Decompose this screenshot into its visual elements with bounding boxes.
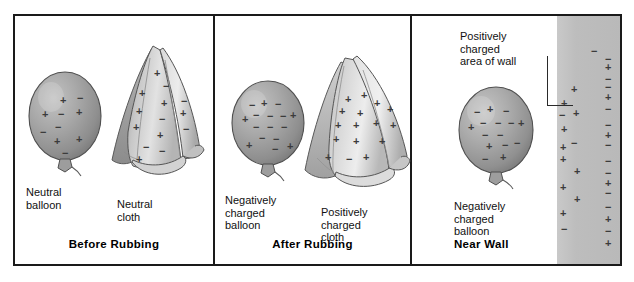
charge-plus: + [136,106,142,117]
charge-plus: + [357,108,363,119]
charge-plus: + [60,95,66,106]
figure-frame: + − + − + − − + + − Neutral balloon [13,14,622,266]
charge-plus: + [605,238,611,249]
charge-plus: + [373,118,379,129]
charge-plus: + [133,122,139,133]
charge-minus: − [253,110,259,121]
charge-minus: − [559,110,565,121]
charge-minus: − [58,109,64,120]
neutral-balloon: + − + − + − − + + − [27,69,107,181]
charge-minus: − [605,202,611,213]
charge-plus: + [136,154,142,165]
charge-plus: + [387,104,393,115]
wall-callout-line-horizontal [547,105,573,106]
charge-plus: + [390,120,396,131]
charge-plus: + [54,136,60,147]
charge-minus: − [181,96,187,107]
charge-plus: + [157,130,163,141]
negatively-charged-balloon-label: Negatively charged balloon [454,200,505,238]
charge-minus: − [605,188,611,199]
charge-plus: + [290,110,296,121]
charge-plus: + [500,152,506,163]
panel-before-rubbing: + − + − + − − + + − Neutral balloon [15,16,213,264]
charge-plus: + [325,152,331,163]
caption-before-rubbing: Before Rubbing [15,238,213,250]
negatively-charged-balloon: − + − − + − − + − − + − − − + [456,84,540,196]
charge-plus: + [353,120,359,131]
charge-plus: + [573,108,579,119]
charge-minus: − [267,122,273,133]
charge-plus: + [374,98,380,109]
charge-minus: − [62,148,68,159]
panel-near-wall: + + − + + − + + + + + + − − − + − − + [412,16,620,264]
negatively-charged-balloon: − + − − + − − + − − − − + − − + [229,78,311,188]
charge-plus: + [76,134,82,145]
charge-plus: + [287,141,293,152]
charge-minus: − [495,118,501,129]
charge-plus: + [605,92,611,103]
charge-plus: + [571,84,577,95]
charge-minus: − [605,140,611,151]
charge-plus: + [261,98,267,109]
charge-minus: − [40,127,46,138]
charge-minus: − [163,81,169,92]
charge-plus: + [154,68,160,79]
caption-after-rubbing: After Rubbing [215,238,410,250]
charge-minus: − [508,118,514,129]
charge-plus: + [42,109,48,120]
charge-plus: + [468,122,474,133]
charge-plus: + [605,214,611,225]
charge-plus: + [139,88,145,99]
charge-plus: + [574,194,580,205]
wall-callout-label: Positively charged area of wall [460,30,516,68]
charge-minus: − [281,122,287,133]
neutral-balloon-label: Neutral balloon [26,186,61,211]
charge-plus: + [246,140,252,151]
charge-plus: + [363,152,369,163]
charge-plus: + [379,136,385,147]
charge-minus: − [503,106,509,117]
charge-plus: + [574,166,580,177]
charge-plus: + [487,104,493,115]
charge-plus: + [353,136,359,147]
charge-minus: − [275,99,281,110]
negatively-charged-balloon-label: Negatively charged balloon [225,194,276,232]
charge-minus: − [77,93,83,104]
charge-minus: − [502,140,508,151]
charge-minus: − [561,224,567,235]
charge-minus: − [143,142,149,153]
charge-plus: + [333,134,339,145]
charge-minus: − [272,144,278,155]
charge-plus: + [339,106,345,117]
charge-minus: − [55,122,61,133]
charge-plus: + [161,98,167,109]
charge-minus: − [183,124,189,135]
charge-minus: − [605,156,611,167]
charge-minus: − [514,138,520,149]
charge-minus: − [482,154,488,165]
charge-plus: + [561,124,567,135]
charge-plus: − [571,138,577,149]
charge-plus: + [486,141,492,152]
positively-charged-cloth: + + + + + + + + + + + + + − + + [301,46,413,192]
caption-near-wall: Near Wall [454,238,509,250]
charge-minus: + [560,142,566,153]
charge-plus: + [518,118,524,129]
charge-plus: + [180,108,186,119]
charge-plus: + [335,120,341,131]
charge-plus: + [605,62,611,73]
charge-minus: − [159,114,165,125]
panel-after-rubbing: − + − − + − − + − − − − + − − + Negative… [215,16,410,264]
charge-plus: + [361,90,367,101]
charge-minus: − [159,146,165,157]
charge-plus: + [560,208,566,219]
charge-minus: − [591,46,597,57]
neutral-cloth-label: Neutral cloth [117,198,152,223]
charge-plus: + [561,98,567,109]
charge-minus: − [346,154,352,165]
wall-callout-line-vertical [547,56,548,105]
neutral-cloth: + − + + − + + − + − + − − + [103,36,211,184]
charge-minus: − [605,104,611,115]
charge-plus: + [345,94,351,105]
charge-plus: + [76,107,82,118]
